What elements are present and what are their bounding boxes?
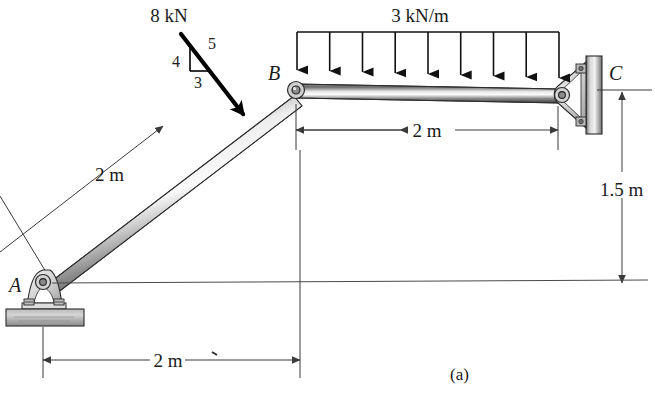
point-label-a: A — [7, 274, 22, 296]
slope-hypotenuse-label: 5 — [208, 35, 216, 52]
base-span-label: 2 m — [153, 350, 182, 371]
point-label-c: C — [609, 62, 623, 84]
beam-span-label: 2 m — [412, 120, 441, 141]
bolt-left — [24, 299, 34, 305]
figure-canvas: 2 m B — [0, 0, 655, 400]
bracket-bolt-top — [576, 64, 586, 73]
height-label: 1.5 m — [600, 179, 644, 200]
frame-diagram-svg: 2 m B — [0, 0, 655, 400]
bracket-bolt-bottom — [576, 117, 586, 126]
point-label-b: B — [268, 62, 280, 84]
figure-caption: (a) — [450, 365, 469, 384]
background — [0, 0, 655, 400]
pin-joint-icon — [288, 82, 305, 99]
point-force-label: 8 kN — [150, 5, 188, 26]
distributed-load-label: 3 kN/m — [391, 5, 449, 26]
slope-horizontal-label: 3 — [194, 74, 202, 91]
bolt-right — [54, 299, 64, 305]
incline-length-label: 2 m — [95, 164, 124, 185]
slope-vertical-label: 4 — [172, 53, 180, 70]
